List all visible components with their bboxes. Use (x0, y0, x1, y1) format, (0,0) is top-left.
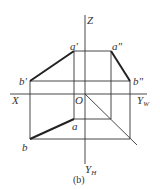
point-a-label: a (72, 120, 78, 132)
point-a-double-prime-label: a" (112, 40, 123, 52)
x-label: X (11, 94, 20, 106)
yh-label: YH (85, 163, 97, 177)
point-b-label: b (22, 141, 28, 153)
point-b-prime-label: b' (19, 75, 28, 87)
segment-side-view (111, 51, 130, 81)
projection-diagram: Z X O YW YH a' a" b' b" a b (b) (0, 0, 160, 189)
segment-front-view (30, 51, 74, 81)
point-b-double-prime-label: b" (133, 75, 144, 87)
caption: (b) (73, 174, 85, 186)
segment-top-view (30, 119, 74, 139)
origin-label: O (75, 94, 83, 106)
point-a-prime-label: a' (70, 40, 79, 52)
yw-label: YW (137, 94, 150, 108)
z-label: Z (87, 14, 94, 26)
